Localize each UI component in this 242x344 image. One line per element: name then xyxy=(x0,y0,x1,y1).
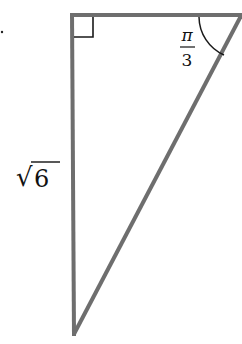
left-side xyxy=(72,13,74,336)
angle-arc xyxy=(199,17,224,55)
hypotenuse xyxy=(74,14,242,334)
stray-dot xyxy=(1,31,3,33)
triangle-diagram: π 3 √ 6 xyxy=(0,0,242,344)
angle-numerator: π xyxy=(180,25,193,45)
right-angle-marker xyxy=(74,17,93,37)
side-value: 6 xyxy=(34,165,49,193)
side-radical-sign: √ xyxy=(16,162,33,192)
angle-denominator: 3 xyxy=(182,50,193,70)
